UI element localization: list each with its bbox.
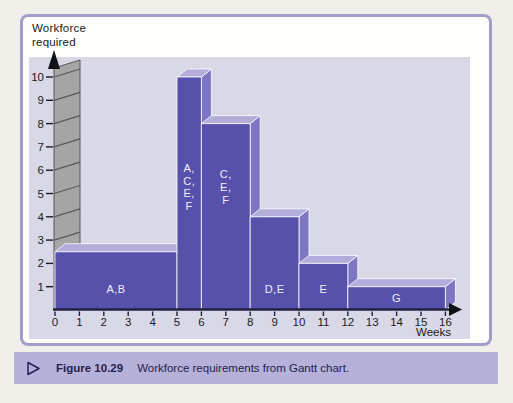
y-tick-label: 3 [38,234,44,246]
workforce-histogram: 12345678910A,BA,C,E,FC,E,FD,EEG012345678… [0,0,513,350]
bar-label: E, [183,187,194,199]
y-tick-label: 1 [38,281,44,293]
bar-top-face [299,255,358,263]
bar-top-face [55,244,187,252]
y-tick-label: 6 [38,164,44,176]
x-tick-label: 14 [390,316,403,328]
x-tick-label: 8 [247,316,253,328]
x-tick-label: 5 [174,316,180,328]
y-tick-label: 2 [38,257,44,269]
bar-D-E [250,217,299,310]
x-tick-label: 7 [223,316,229,328]
y-tick-label: 8 [38,118,44,130]
scanned-book-page: Workforce required 12345678910A,BA,C,E,F… [0,0,513,403]
bar-top-face [348,279,456,287]
bar-label: F [222,194,229,206]
bar-A-B [55,252,177,310]
bar-label: D,E [265,283,285,295]
x-tick-label: 12 [341,316,354,328]
y-tick-label: 10 [31,71,44,83]
x-tick-label: 13 [366,316,379,328]
x-tick-label: 1 [76,316,82,328]
bar-label: C, [220,168,232,180]
bar-label: A, [183,162,194,174]
bar-top-face [250,209,309,217]
bar-label: E [319,283,327,295]
bar-label: F [186,200,193,212]
bar-label: C, [183,175,195,187]
x-tick-label: 3 [125,316,131,328]
x-axis-title: Weeks [416,326,451,338]
x-tick-label: 2 [101,316,107,328]
x-tick-label: 6 [198,316,204,328]
y-tick-label: 5 [38,188,44,200]
y-tick-label: 7 [38,141,44,153]
y-tick-label: 9 [38,94,44,106]
bar-label: A,B [106,283,125,295]
triangle-right-icon [26,361,41,376]
bar-C-E-F [201,124,250,310]
bar-label: E, [220,181,231,193]
x-axis-arrow-icon [449,303,462,316]
bar-top-face [201,116,260,124]
x-tick-label: 11 [317,316,329,328]
y-axis-arrow-icon [48,50,60,69]
figure-caption-band: Figure 10.29 Workforce requirements from… [14,352,498,384]
bar-label: G [392,292,401,304]
y-tick-label: 4 [38,211,45,223]
x-tick-label: 9 [271,316,277,328]
x-tick-label: 4 [149,316,156,328]
x-tick-label: 0 [52,316,58,328]
x-tick-label: 10 [293,316,306,328]
figure-number-label: Figure 10.29 [56,362,123,374]
figure-caption-text: Workforce requirements from Gantt chart. [137,362,349,374]
